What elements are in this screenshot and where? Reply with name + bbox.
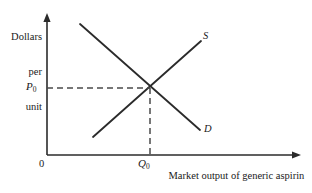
x-axis-title: Market output of generic aspirin (Q) bbox=[158, 158, 310, 193]
price-label-subscript: 0 bbox=[33, 85, 37, 94]
demand-curve bbox=[80, 24, 200, 130]
quantity-label-base: Q bbox=[138, 157, 146, 169]
quantity-label-subscript: 0 bbox=[146, 162, 150, 171]
equilibrium-price-label: P0 bbox=[26, 80, 36, 92]
x-axis-title-text: Market output of generic aspirin bbox=[169, 170, 305, 181]
y-axis-title-line-2: per bbox=[2, 66, 42, 78]
origin-label: 0 bbox=[39, 158, 44, 170]
supply-curve-label: S bbox=[203, 30, 208, 42]
y-axis bbox=[43, 13, 50, 155]
supply-curve bbox=[93, 41, 201, 137]
y-axis-title-line-1: Dollars bbox=[2, 31, 42, 43]
equilibrium-quantity-label: Q0 bbox=[138, 157, 150, 169]
demand-curve-label: D bbox=[204, 123, 212, 135]
y-axis-title-line-3: unit bbox=[2, 101, 42, 113]
price-label-base: P bbox=[26, 80, 33, 92]
supply-demand-figure: Dollars per unit Market output of generi… bbox=[0, 0, 312, 193]
y-axis-title: Dollars per unit bbox=[2, 7, 42, 136]
